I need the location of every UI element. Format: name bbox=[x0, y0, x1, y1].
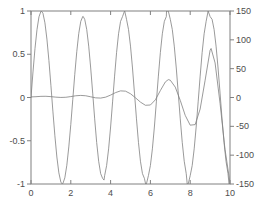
right-axis-tick-label: 150 bbox=[236, 7, 251, 16]
right-axis-tick-label: 0 bbox=[236, 93, 241, 102]
left-axis-tick-label: 1 bbox=[20, 7, 25, 16]
left-axis-tick-label: -0.5 bbox=[9, 136, 25, 145]
x-axis-tick-label: 0 bbox=[28, 189, 33, 198]
left-axis-tick-label: 0.5 bbox=[12, 50, 25, 59]
right-axis-tick-label: 50 bbox=[236, 64, 246, 73]
x-axis-tick-label: 4 bbox=[108, 189, 113, 198]
chart-figure: -1-0.500.51 -150-100-50050100150 0246810 bbox=[0, 0, 257, 213]
left-axis-tick-label: 0 bbox=[20, 93, 25, 102]
right-axis-tick-label: 100 bbox=[236, 35, 251, 44]
data-series-group bbox=[31, 11, 230, 184]
x-axis-tick-label: 2 bbox=[68, 189, 73, 198]
x-axis-tick-label: 8 bbox=[188, 189, 193, 198]
right-axis-tick-label: -150 bbox=[236, 180, 254, 189]
right-axis-tick-label: -100 bbox=[236, 151, 254, 160]
left-axis-tick-label: -1 bbox=[17, 180, 25, 189]
right-axis-tick-label: -50 bbox=[236, 122, 249, 131]
x-axis-tick-label: 10 bbox=[225, 189, 235, 198]
data-series-line-1 bbox=[31, 48, 230, 182]
x-axis-tick-label: 6 bbox=[148, 189, 153, 198]
plot-canvas bbox=[0, 0, 257, 213]
